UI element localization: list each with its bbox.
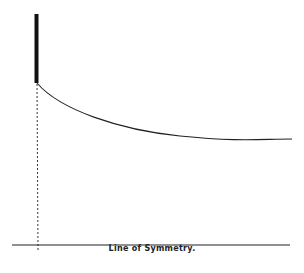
axis-label: Line of Symmetry. [0,244,304,253]
diagram-drawing [0,0,304,273]
decay-curve [37,83,292,140]
dashed-projection [37,84,38,250]
diagram: Line of Symmetry. [0,0,304,273]
thick-bar [35,14,39,83]
